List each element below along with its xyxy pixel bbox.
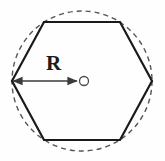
geometry-figure-canvas: [0, 0, 165, 161]
radius-label: R: [46, 53, 61, 74]
hexagon-diagram: R: [0, 0, 165, 161]
center-point-marker: [80, 77, 89, 86]
